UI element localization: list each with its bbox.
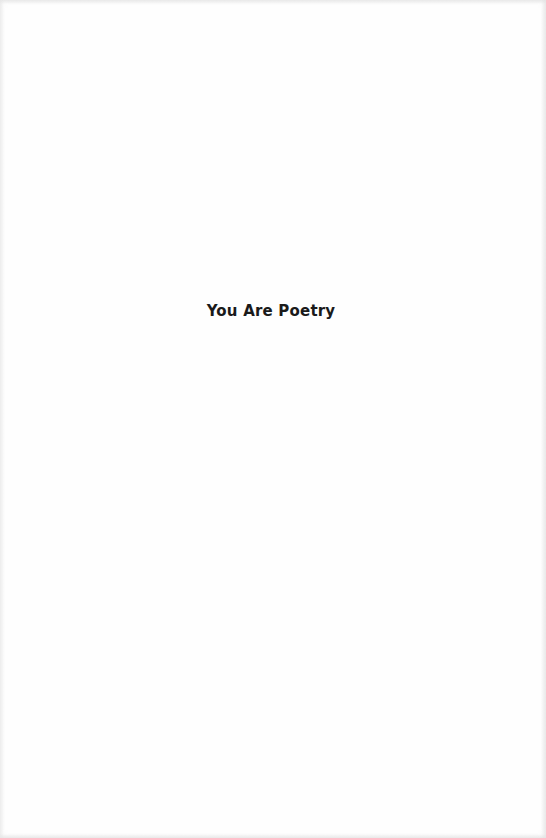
page-edge-right [541,0,546,838]
page-title: You Are Poetry [0,302,542,320]
page-edge-bottom [0,834,546,838]
book-page: You Are Poetry [0,0,546,838]
page-edge-top [0,0,546,4]
page-edge-left [0,0,4,838]
